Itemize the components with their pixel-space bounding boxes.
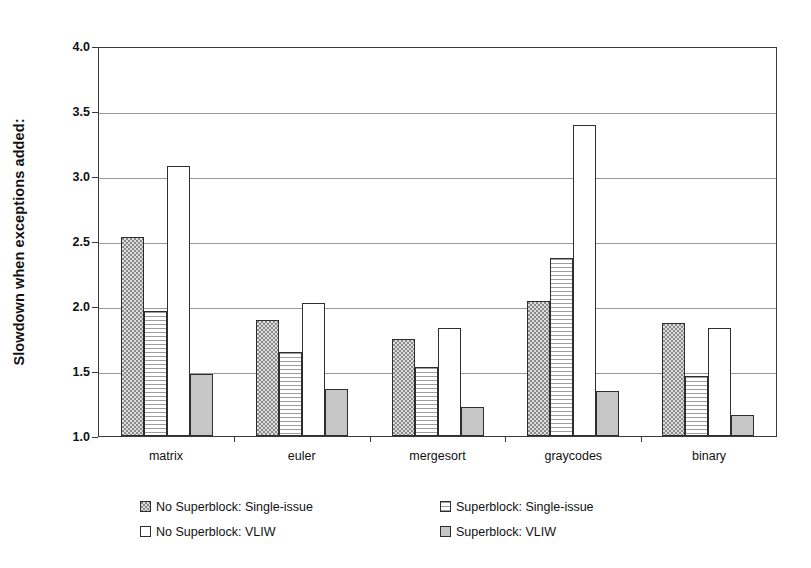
bar — [685, 376, 708, 436]
x-tick-label: matrix — [98, 443, 234, 469]
bar — [302, 303, 325, 436]
legend-item: No Superblock: Single-issue — [140, 500, 440, 514]
legend-item: Superblock: Single-issue — [440, 500, 670, 514]
chart-legend: No Superblock: Single-issueSuperblock: S… — [140, 494, 670, 544]
bar — [596, 391, 619, 437]
y-tick-mark — [92, 242, 98, 243]
plot-area — [98, 47, 777, 437]
legend-swatch-grey — [440, 526, 451, 537]
bar — [392, 339, 415, 437]
y-tick-label: 1.5 — [32, 365, 90, 379]
x-tick-label: graycodes — [505, 443, 641, 469]
bar — [438, 328, 461, 436]
legend-label: No Superblock: Single-issue — [156, 500, 313, 514]
y-tick-mark — [92, 112, 98, 113]
y-tick-label: 2.0 — [32, 300, 90, 314]
legend-label: No Superblock: VLIW — [156, 525, 276, 539]
y-tick-mark — [92, 307, 98, 308]
bar-group — [641, 48, 776, 436]
y-tick-mark — [92, 372, 98, 373]
legend-label: Superblock: Single-issue — [456, 500, 594, 514]
legend-label: Superblock: VLIW — [456, 525, 556, 539]
bar — [121, 237, 144, 436]
bar — [461, 407, 484, 436]
bar — [731, 415, 754, 436]
x-tick-label: mergesort — [370, 443, 506, 469]
bar — [662, 323, 685, 436]
bar — [527, 301, 550, 436]
bar — [325, 389, 348, 436]
x-tick-label: binary — [641, 443, 777, 469]
y-tick-label: 2.5 — [32, 235, 90, 249]
y-tick-label: 3.0 — [32, 170, 90, 184]
y-tick-mark — [92, 437, 98, 438]
bar — [279, 352, 302, 437]
bar — [550, 258, 573, 436]
bar-group — [505, 48, 640, 436]
legend-item: Superblock: VLIW — [440, 525, 670, 539]
bar — [415, 367, 438, 436]
bar-group — [370, 48, 505, 436]
chart-figure: Slowdown when exceptions added: 1.01.52.… — [0, 0, 811, 568]
legend-swatch-white — [140, 526, 151, 537]
y-tick-label: 4.0 — [32, 40, 90, 54]
y-tick-mark — [92, 47, 98, 48]
bar-group — [234, 48, 369, 436]
bar — [573, 125, 596, 436]
y-tick-label: 1.0 — [32, 430, 90, 444]
bar — [190, 374, 213, 436]
bar — [708, 328, 731, 436]
legend-swatch-hlines — [440, 501, 451, 512]
bar-groups — [99, 48, 776, 436]
y-tick-mark — [92, 177, 98, 178]
bar — [144, 311, 167, 436]
y-axis-title: Slowdown when exceptions added: — [8, 47, 30, 437]
legend-swatch-dots — [140, 501, 151, 512]
bar-group — [99, 48, 234, 436]
x-tick-label: euler — [234, 443, 370, 469]
bar — [167, 166, 190, 436]
y-tick-label: 3.5 — [32, 105, 90, 119]
legend-item: No Superblock: VLIW — [140, 525, 440, 539]
bar — [256, 320, 279, 436]
x-axis-labels: matrixeulermergesortgraycodesbinary — [98, 443, 777, 469]
